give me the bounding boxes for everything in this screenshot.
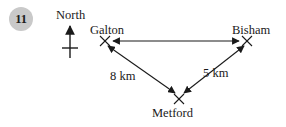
north-arrow-icon <box>62 26 78 58</box>
vertex-marker-galton <box>100 36 110 46</box>
distance-label-galton-metford: 8 km <box>110 70 135 83</box>
vertex-marker-metford <box>174 94 184 104</box>
place-label-galton: Galton <box>90 24 124 37</box>
vertex-marker-bisham <box>242 36 252 46</box>
map-sketch-diagram <box>0 0 286 127</box>
distance-label-bisham-metford: 5 km <box>203 67 228 80</box>
figure-root: 11 North Galton B <box>0 0 286 127</box>
compass-north-label: North <box>56 9 85 22</box>
place-label-metford: Metford <box>152 107 193 120</box>
place-label-bisham: Bisham <box>232 24 270 37</box>
